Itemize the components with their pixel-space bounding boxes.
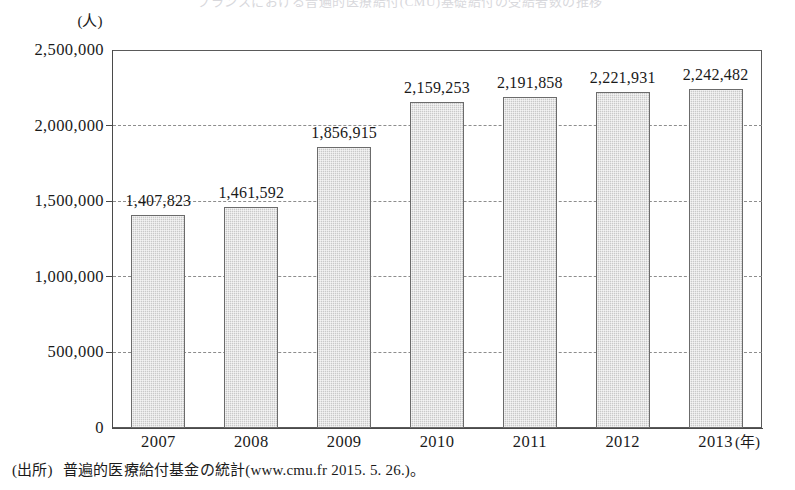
bar (503, 97, 557, 428)
y-axis-tick-label: 2,500,000 (8, 42, 104, 59)
bar (689, 89, 743, 428)
y-axis-tick-label: 1,000,000 (8, 269, 104, 286)
y-axis-tick-label: 2,000,000 (8, 118, 104, 135)
y-axis-tick-label: 1,500,000 (8, 193, 104, 210)
bar-value-label: 1,856,915 (289, 125, 399, 141)
bar (131, 215, 185, 428)
y-axis-unit-label: (人) (62, 14, 118, 29)
y-axis (112, 50, 113, 429)
source-note-label: (出所) (12, 462, 53, 478)
source-note-text: 普遍的医療給付基金の統計(www.cmu.fr 2015. 5. 26.)。 (63, 462, 425, 478)
bar (317, 147, 371, 428)
y-axis-tick-label: 0 (8, 420, 104, 437)
bar (410, 102, 464, 428)
bar (224, 207, 278, 428)
bar-value-label: 2,242,482 (661, 67, 771, 83)
x-axis-unit-label: (年) (735, 435, 760, 450)
bar-value-label: 1,461,592 (196, 185, 306, 201)
bar (596, 92, 650, 428)
source-note: (出所)普遍的医療給付基金の統計(www.cmu.fr 2015. 5. 26.… (12, 461, 425, 479)
y-axis-tick-mark (106, 276, 112, 277)
y-axis-tick-mark (106, 125, 112, 126)
chart-title: フランスにおける普遍的医療給付(CMU)基礎給付の受給者数の推移 (120, 0, 680, 10)
x-axis (112, 428, 763, 429)
y-axis-tick-mark (106, 352, 112, 353)
y-axis-tick-label: 500,000 (8, 344, 104, 361)
bar-chart-figure: フランスにおける普遍的医療給付(CMU)基礎給付の受給者数の推移 (人) 050… (0, 0, 795, 490)
